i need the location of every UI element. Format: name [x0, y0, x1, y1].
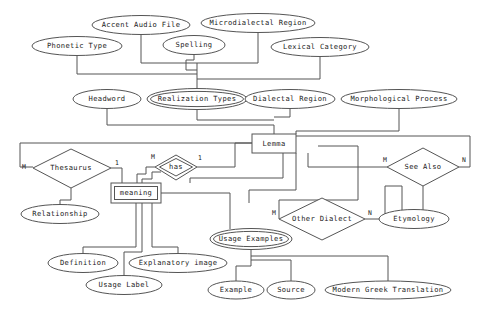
er-diagram-svg: Accent Audio File Microdialectal Region …: [0, 0, 485, 319]
attribute-label: Dialectal Region: [253, 94, 327, 103]
er-diagram-canvas: Accent Audio File Microdialectal Region …: [0, 0, 485, 319]
attribute-label: Realization Types: [158, 94, 237, 103]
attribute-label: Spelling: [176, 40, 213, 49]
attribute-relationship[interactable]: Relationship: [21, 205, 99, 224]
attribute-label: Etymology: [393, 214, 435, 223]
relationship-has[interactable]: has: [155, 155, 197, 180]
cardinality-label: N: [462, 156, 466, 164]
attribute-dialectal-region[interactable]: Dialectal Region: [245, 90, 335, 109]
attribute-headword[interactable]: Headword: [73, 90, 141, 109]
attribute-explanatory-image[interactable]: Explanatory image: [129, 254, 227, 273]
entity-meaning[interactable]: meaning: [111, 183, 161, 203]
cardinality-label: 1: [115, 159, 119, 167]
attribute-phonetic-type[interactable]: Phonetic Type: [32, 37, 122, 56]
attribute-label: Relationship: [32, 209, 87, 218]
relationship-label: has: [169, 162, 183, 171]
attribute-realization-types[interactable]: Realization Types: [147, 89, 247, 110]
attribute-label: Usage Label: [99, 280, 150, 289]
cardinality-label: M: [383, 156, 387, 164]
relationship-label: See Also: [405, 162, 442, 171]
attribute-label: Modern Greek Translation: [333, 285, 444, 294]
relationship-thesaurus[interactable]: Thesaurus: [33, 149, 111, 188]
cardinality-label: 1: [198, 154, 202, 162]
attribute-source[interactable]: Source: [267, 281, 315, 299]
attribute-label: Example: [220, 285, 252, 294]
attribute-label: Accent Audio File: [102, 20, 181, 29]
attribute-label: Phonetic Type: [47, 41, 107, 50]
attribute-modern-greek-translation[interactable]: Modern Greek Translation: [325, 281, 451, 299]
attribute-label: Headword: [89, 94, 126, 103]
attribute-label: Usage Examples: [219, 234, 284, 243]
attribute-example[interactable]: Example: [208, 281, 264, 299]
relationship-label: Other Dialect: [292, 214, 352, 223]
attribute-accent-audio-file[interactable]: Accent Audio File: [92, 16, 190, 35]
entity-label: Lemma: [262, 139, 285, 148]
attribute-lexical-category[interactable]: Lexical Category: [271, 38, 369, 57]
attribute-microdialectal-region[interactable]: Microdialectal Region: [201, 14, 315, 33]
attribute-label: Explanatory image: [139, 258, 218, 267]
relationship-other-dialect[interactable]: Other Dialect: [279, 198, 365, 240]
entity-lemma[interactable]: Lemma: [252, 134, 296, 153]
attribute-label: Definition: [60, 258, 106, 267]
relationship-see-also[interactable]: See Also: [387, 148, 459, 186]
attribute-spelling[interactable]: Spelling: [163, 36, 225, 55]
attribute-morphological-process[interactable]: Morphological Process: [341, 90, 457, 109]
attribute-etymology[interactable]: Etymology: [379, 210, 449, 229]
attribute-label: Source: [277, 285, 305, 294]
attribute-usage-label[interactable]: Usage Label: [86, 276, 162, 295]
cardinality-label: M: [151, 153, 155, 161]
attribute-label: Lexical Category: [283, 42, 357, 51]
attribute-label: Microdialectal Region: [209, 18, 306, 27]
cardinality-label: N: [368, 209, 372, 217]
cardinality-label: M: [22, 163, 26, 171]
entity-label: meaning: [120, 188, 152, 197]
attribute-definition[interactable]: Definition: [48, 254, 118, 273]
attribute-usage-examples[interactable]: Usage Examples: [210, 229, 292, 250]
cardinality-label: M: [272, 209, 276, 217]
relationship-label: Thesaurus: [50, 163, 92, 172]
attribute-label: Morphological Process: [350, 94, 447, 103]
